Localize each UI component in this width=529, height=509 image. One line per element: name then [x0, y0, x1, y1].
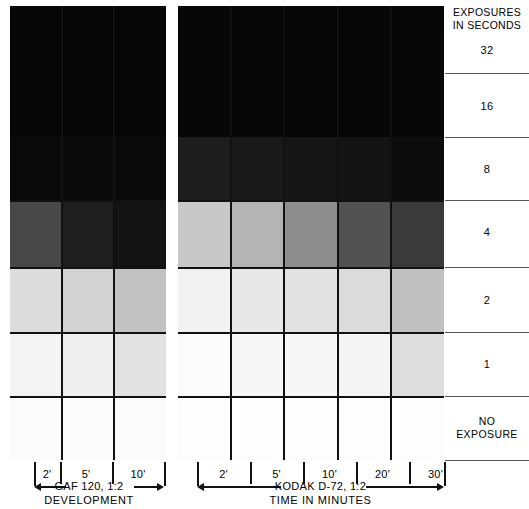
grid-row-rule — [10, 267, 166, 269]
density-patch — [231, 332, 284, 396]
density-patch — [231, 396, 284, 460]
density-patch — [284, 332, 337, 396]
density-patch — [62, 267, 114, 332]
density-patch — [284, 137, 337, 200]
density-patch — [62, 200, 114, 267]
grid-row-rule — [178, 267, 444, 269]
legend-divider — [445, 332, 529, 333]
grid-column-rule — [337, 6, 339, 460]
time-label-5min: 5' — [250, 468, 303, 480]
patch-panel-gaf — [10, 6, 166, 460]
density-patch — [338, 6, 391, 73]
density-patch — [231, 137, 284, 200]
grid-row-rule — [10, 332, 166, 334]
density-patch — [178, 267, 231, 332]
density-patch — [338, 332, 391, 396]
grid-row-rule — [10, 396, 166, 398]
time-label-20min: 20' — [356, 468, 409, 480]
exposure-label-1: 1 — [445, 358, 529, 370]
test-chart-sheet: EXPOSURES IN SECONDS 32 16 8 4 2 1 NO EX… — [0, 0, 529, 509]
density-patch — [391, 396, 444, 460]
density-patch — [62, 73, 114, 137]
density-patch — [284, 200, 337, 267]
exposure-label-no-exposure: NO EXPOSURE — [445, 415, 529, 440]
density-patch — [114, 73, 166, 137]
density-patch — [338, 73, 391, 137]
legend-title: EXPOSURES IN SECONDS — [445, 6, 529, 31]
time-label-10min: 10' — [112, 468, 164, 480]
exposure-label-32: 32 — [445, 44, 529, 56]
density-patch — [178, 73, 231, 137]
density-patch — [284, 6, 337, 73]
exposure-label-4: 4 — [445, 226, 529, 238]
developer-label-gaf: GAF 120, 1:2 — [0, 480, 178, 492]
time-label-10min: 10' — [303, 468, 356, 480]
density-patch — [62, 332, 114, 396]
exposure-legend: EXPOSURES IN SECONDS 32 16 8 4 2 1 NO EX… — [445, 0, 529, 460]
no-exposure-line1: NO — [445, 415, 529, 428]
density-patch — [391, 267, 444, 332]
time-label-30min: 30' — [409, 468, 462, 480]
density-patch — [10, 6, 62, 73]
density-patch — [114, 137, 166, 200]
density-patch — [62, 396, 114, 460]
density-patch — [10, 73, 62, 137]
developer-label-kodak: KODAK D-72, 1:2 — [178, 480, 463, 492]
grid-column-rule — [113, 6, 115, 460]
density-patch — [178, 6, 231, 73]
exposure-label-8: 8 — [445, 163, 529, 175]
grid-row-rule — [10, 200, 166, 202]
time-scale-kodak: 2' 5' 10' 20' 30' KODAK D-72, 1:2 TIME I… — [178, 460, 468, 509]
density-patch — [284, 267, 337, 332]
density-patch — [391, 73, 444, 137]
legend-title-line1: EXPOSURES — [445, 6, 529, 19]
grid-row-rule — [178, 332, 444, 334]
density-patch — [114, 332, 166, 396]
grid-row-rule — [178, 200, 444, 202]
time-scale-gaf: 2' 5' 10' GAF 120, 1:2 DEVELOPMENT — [0, 460, 178, 509]
density-patch — [178, 200, 231, 267]
density-patch — [231, 73, 284, 137]
density-patch — [114, 267, 166, 332]
no-exposure-line2: EXPOSURE — [445, 428, 529, 441]
density-patch — [338, 396, 391, 460]
density-patch — [178, 332, 231, 396]
time-label-2min: 2' — [197, 468, 250, 480]
density-patch — [114, 200, 166, 267]
grid-column-rule — [390, 6, 392, 460]
density-patch — [231, 267, 284, 332]
density-patch — [10, 332, 62, 396]
density-patch — [178, 137, 231, 200]
legend-divider — [445, 137, 529, 138]
grid-column-rule — [230, 6, 232, 460]
density-patch — [10, 137, 62, 200]
density-patch — [284, 73, 337, 137]
exposure-label-16: 16 — [445, 100, 529, 112]
time-label-2min: 2' — [34, 468, 60, 480]
legend-divider — [445, 396, 529, 397]
density-patch — [114, 6, 166, 73]
legend-title-line2: IN SECONDS — [445, 19, 529, 32]
density-patch — [10, 267, 62, 332]
density-patch — [114, 396, 166, 460]
grid-column-rule — [283, 6, 285, 460]
density-patch — [62, 6, 114, 73]
axis-caption-gaf: DEVELOPMENT — [0, 494, 178, 506]
legend-divider — [445, 267, 529, 268]
patch-panel-kodak — [178, 6, 444, 460]
density-patch — [391, 200, 444, 267]
density-patch — [391, 6, 444, 73]
density-patch — [284, 396, 337, 460]
legend-divider — [445, 73, 529, 74]
density-patch — [231, 200, 284, 267]
density-patch — [10, 396, 62, 460]
legend-divider — [445, 200, 529, 201]
density-patch — [391, 332, 444, 396]
density-patch — [338, 137, 391, 200]
density-patch — [10, 200, 62, 267]
density-patch — [391, 137, 444, 200]
grid-row-rule — [178, 396, 444, 398]
density-patch — [62, 137, 114, 200]
density-patch — [338, 200, 391, 267]
axis-caption-kodak: TIME IN MINUTES — [178, 494, 463, 506]
